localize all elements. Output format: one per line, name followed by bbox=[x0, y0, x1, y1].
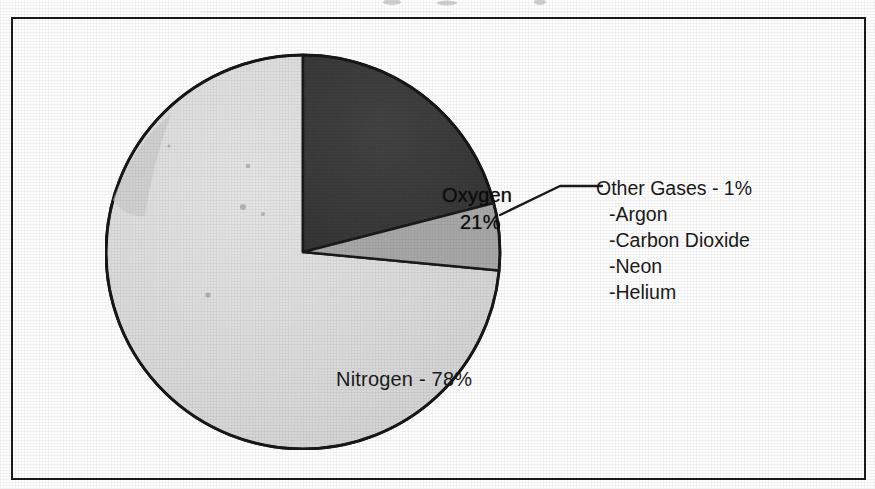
other-gases-callout: Other Gases - 1% -Argon -Carbon Dioxide … bbox=[596, 175, 846, 305]
scan-artifact-top bbox=[0, 0, 875, 14]
list-item: -Argon bbox=[609, 201, 846, 227]
list-item: -Carbon Dioxide bbox=[609, 227, 846, 253]
pie-label-nitrogen: Nitrogen - 78% bbox=[336, 368, 472, 391]
other-gases-list: -Argon -Carbon Dioxide -Neon -Helium bbox=[596, 201, 846, 305]
callout-leader-line bbox=[490, 175, 605, 225]
list-item: -Neon bbox=[609, 253, 846, 279]
chart-page: Oxygen 21% Nitrogen - 78% Other Gases - … bbox=[0, 0, 875, 489]
list-item: -Helium bbox=[609, 279, 846, 305]
callout-title: Other Gases - 1% bbox=[596, 175, 846, 201]
pie-chart: Oxygen 21% Nitrogen - 78% bbox=[105, 50, 509, 450]
